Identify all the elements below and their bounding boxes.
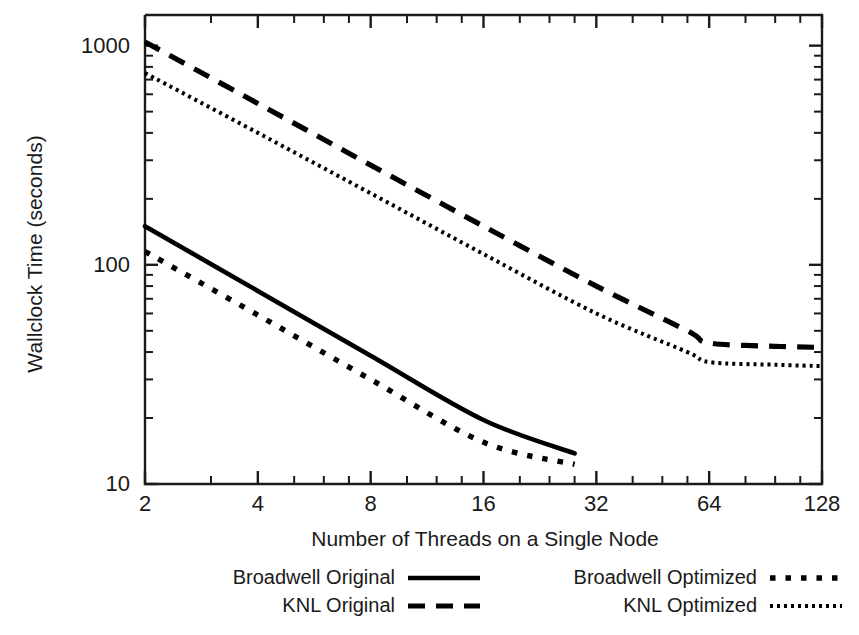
legend-swatch-dotted <box>769 571 843 585</box>
legend-swatch-dashed <box>407 599 481 613</box>
plot-area <box>0 0 859 635</box>
series-line-knl-optimized <box>145 73 822 366</box>
legend-item-label: KNL Original <box>150 594 395 617</box>
axes-frame <box>145 15 822 484</box>
series-line-knl-original <box>145 42 822 347</box>
legend-swatch-fine-dotted <box>769 599 843 613</box>
legend-item: Broadwell Optimized <box>495 566 843 589</box>
legend-item: Broadwell Original <box>150 566 481 589</box>
legend-item: KNL Original <box>150 594 481 617</box>
legend-item-label: Broadwell Original <box>150 566 395 589</box>
legend-item-label: Broadwell Optimized <box>495 566 757 589</box>
legend-item-label: KNL Optimized <box>495 594 757 617</box>
legend-swatch-solid <box>407 571 481 585</box>
chart-figure: Wallclock Time (seconds) Number of Threa… <box>0 0 859 635</box>
series-line-broadwell-original <box>145 226 575 453</box>
legend-item: KNL Optimized <box>495 594 843 617</box>
